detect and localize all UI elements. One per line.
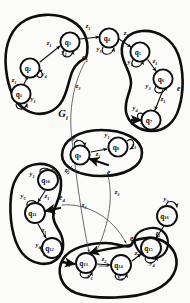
node-q10[interactable]: q10 [38,170,58,190]
node-q14[interactable]: q14 [111,255,131,275]
node-q8[interactable]: q8 [108,137,127,156]
edge-label-q4-self: y3 [95,45,102,54]
node-q5[interactable]: q5 [130,42,149,61]
edge-label-q1-self: y1 [29,95,35,104]
edge-label-q1-q2: z1 [11,76,17,85]
region-label-e3: e3 [107,168,113,178]
node-q9[interactable]: q9 [70,145,89,164]
node-q13[interactable]: q13 [76,253,96,273]
edge-label-q10-q11: z1 [44,192,50,201]
node-q12[interactable]: q12 [42,238,62,258]
node-q15-sub: 15 [148,247,153,252]
node-q1[interactable]: q1 [11,84,30,103]
edge-label-q13-q14: z2 [101,255,108,264]
edge-label-q3-q4: z1 [85,22,91,31]
edge-label-q5-q6: z1 [152,57,158,66]
edge-label-q8-top: y1 [103,131,109,140]
node-q2[interactable]: q2 [20,58,39,77]
node-q13-sub: 13 [83,262,88,267]
edge-label-q11-q12: z1 [41,226,47,235]
node-q6[interactable]: q6 [153,69,172,88]
graph-title: Gi [58,108,68,121]
edge-label-q11-self: y5 [19,192,26,201]
edge-label-q15-self: y4 [148,259,155,268]
node-q7[interactable]: q7 [141,110,160,129]
edge-label-q2-q3: z1 [46,39,52,48]
edge-label-q13-left: z1 [65,259,71,268]
node-q14-sub: 14 [118,264,123,269]
node-q11[interactable]: q11 [25,203,45,223]
edge-label-q5-self: y1 [126,58,132,67]
edge-label-q7-self: y4 [131,104,138,113]
edge-label-q6-self: y3 [144,82,151,91]
edge-label-q10-self: y1 [28,170,34,179]
edge-label-q9-q8: z1 [95,150,101,159]
figure-canvas: q1 q2 q3 q4 q5 q6 q7 q8 [0,0,190,303]
edge-label-e1-z3: z3 [75,82,82,91]
cross-region-curves [62,62,126,266]
node-q11-sub: 11 [32,212,37,217]
node-q10-sub: 10 [45,179,50,184]
node-q4[interactable]: q4 [99,28,118,47]
edge-label-q4-q5: z1 [123,29,129,38]
edge-label-e3-z3: z3 [114,188,121,197]
region-label-e4: e4 [59,193,65,203]
node-q12-sub: 12 [49,247,54,252]
node-q15[interactable]: q15 [141,238,161,258]
edge-label-q16-star: y* [162,195,169,204]
diagram-svg: q1 q2 q3 q4 q5 q6 q7 q8 [0,0,190,303]
edge-label-q12-self: y6 [34,241,41,250]
edge-label-q6-q7: z1 [160,95,166,104]
node-q16-sub: 16 [164,215,169,220]
node-q16[interactable]: q16 [157,206,177,226]
edge-label-e4-z3: z3 [81,201,88,210]
